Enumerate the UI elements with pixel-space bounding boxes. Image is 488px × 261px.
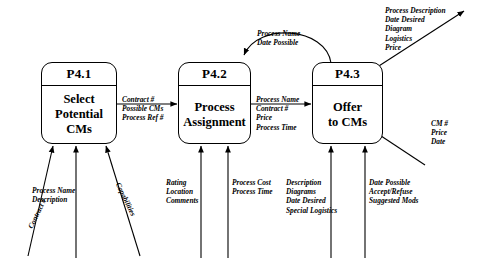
process-name-p42-line2: Assignment — [183, 115, 246, 130]
process-name-p42-line1: Process — [194, 100, 234, 115]
process-name-p42: Process Assignment — [179, 86, 250, 143]
flow-label-p42-in-left-line2: Location — [166, 187, 198, 196]
dataflow-diagram-canvas: P4.1 Select Potential CMs P4.2 Process A… — [0, 0, 488, 261]
flow-label-p43-in-right: Date Possible Accept/Refuse Suggested Mo… — [369, 178, 418, 206]
process-name-p43: Offer to CMs — [313, 86, 382, 143]
flow-label-p42-in-right-line1: Process Cost — [232, 178, 273, 187]
flow-label-p43-in-right-line2: Accept/Refuse — [369, 187, 418, 196]
flow-label-p43-in-right-line3: Suggested Mods — [369, 196, 418, 205]
process-name-p43-line2: to CMs — [328, 115, 367, 130]
process-name-p41: Select Potential CMs — [42, 86, 116, 143]
flow-label-p42-to-p43-line2: Contract # — [256, 104, 299, 113]
process-id-p43: P4.3 — [313, 63, 382, 86]
flow-label-feedback-line1: Process Name — [257, 29, 300, 38]
flow-label-p42-in-left: Rating Location Comments — [166, 178, 198, 206]
process-name-p41-line3: CMs — [66, 122, 92, 137]
flow-label-out-upper-line5: Price — [385, 43, 446, 52]
flow-label-p43-in-left-line2: Diagrams — [286, 187, 337, 196]
flow-label-p43-in-left-line1: Description — [286, 178, 337, 187]
flow-label-p42-in-right: Process Cost Process Time — [232, 178, 273, 196]
process-name-p43-line1: Offer — [333, 100, 362, 115]
flow-label-p43-in-left-line3: Date Desired — [286, 196, 337, 205]
flow-label-p41-to-p42-line2: Possible CMs — [122, 104, 163, 113]
flow-label-out-upper-line3: Diagram — [385, 24, 446, 33]
flow-label-p42-in-left-line3: Comments — [166, 196, 198, 205]
flow-label-p41-in-center-line2: Description — [32, 195, 75, 204]
flow-label-p41-to-p42: Contract # Possible CMs Process Ref # — [122, 95, 163, 123]
flow-label-p41-in-center: Process Name Description — [32, 186, 75, 204]
flow-label-p42-to-p43: Process Name Contract # Price Process Ti… — [256, 95, 299, 132]
flow-label-out-upper-line2: Date Desired — [385, 15, 446, 24]
flow-label-out-lower-line1: CM # — [431, 119, 448, 128]
flow-label-p42-to-p43-line4: Process Time — [256, 123, 299, 132]
flow-label-p43-in-left: Description Diagrams Date Desired Specia… — [286, 178, 337, 215]
process-name-p41-line2: Potential — [55, 107, 103, 122]
flow-label-out-lower-line3: Date — [431, 137, 448, 146]
flow-label-p42-to-p43-line3: Price — [256, 113, 299, 122]
flow-label-out-lower-line2: Price — [431, 128, 448, 137]
flow-label-p43-to-p42-feedback: Process Name Date Possible — [257, 29, 300, 47]
flow-label-feedback-line2: Date Possible — [257, 38, 300, 47]
flow-label-p43-in-left-line4: Special Logistics — [286, 206, 337, 215]
flow-label-out-upper-line4: Logistics — [385, 34, 446, 43]
process-name-p41-line1: Select — [63, 92, 94, 107]
flow-label-p41-to-p42-line1: Contract # — [122, 95, 163, 104]
process-box-p43[interactable]: P4.3 Offer to CMs — [312, 62, 383, 144]
process-id-p42: P4.2 — [179, 63, 250, 86]
flow-label-p42-in-left-line1: Rating — [166, 178, 198, 187]
process-id-p41: P4.1 — [42, 63, 116, 86]
process-box-p42[interactable]: P4.2 Process Assignment — [178, 62, 251, 144]
flow-label-p43-in-right-line1: Date Possible — [369, 178, 418, 187]
flow-label-p42-in-right-line2: Process Time — [232, 187, 273, 196]
flow-label-out-upper-line1: Process Description — [385, 6, 446, 15]
flow-label-p41-in-center-line1: Process Name — [32, 186, 75, 195]
flow-label-p41-to-p42-line3: Process Ref # — [122, 113, 163, 122]
flow-label-p43-out-upper: Process Description Date Desired Diagram… — [385, 6, 446, 52]
flow-label-p42-to-p43-line1: Process Name — [256, 95, 299, 104]
process-box-p41[interactable]: P4.1 Select Potential CMs — [41, 62, 117, 144]
flow-label-p43-out-lower: CM # Price Date — [431, 119, 448, 147]
